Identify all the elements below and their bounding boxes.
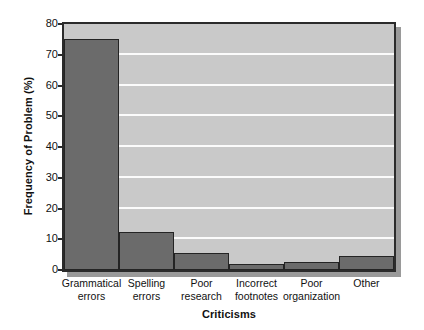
y-tick-mark xyxy=(58,238,62,240)
bar xyxy=(174,253,229,270)
bar xyxy=(119,232,174,270)
y-tick-label: 20 xyxy=(18,202,58,214)
y-tick-mark xyxy=(58,115,62,117)
y-tick-label: 30 xyxy=(18,171,58,183)
y-tick-label: 40 xyxy=(18,140,58,152)
bar-chart-figure: Frequency of Problem (%) 010203040506070… xyxy=(0,0,424,330)
x-tick-label-line: Other xyxy=(327,277,407,290)
y-tick-label: 10 xyxy=(18,232,58,244)
y-tick-mark xyxy=(58,269,62,271)
y-tick-mark xyxy=(58,177,62,179)
x-axis-tick-labels: GrammaticalerrorsSpellingerrorsPoorresea… xyxy=(62,277,396,307)
plot-area xyxy=(62,22,396,272)
y-tick-mark xyxy=(58,23,62,25)
x-axis-title: Criticisms xyxy=(62,308,396,320)
y-tick-label: 60 xyxy=(18,79,58,91)
bar xyxy=(339,256,394,270)
bar xyxy=(229,264,284,270)
y-tick-mark xyxy=(58,146,62,148)
y-tick-label: 80 xyxy=(18,17,58,29)
bar xyxy=(284,262,339,270)
x-tick-label-line: organization xyxy=(272,290,352,303)
y-tick-mark xyxy=(58,54,62,56)
y-tick-mark xyxy=(58,85,62,87)
y-tick-label: 50 xyxy=(18,109,58,121)
bar xyxy=(64,39,119,270)
y-tick-mark xyxy=(58,208,62,210)
y-tick-label: 70 xyxy=(18,48,58,60)
x-tick-label: Other xyxy=(327,277,407,290)
y-tick-label: 0 xyxy=(18,263,58,275)
